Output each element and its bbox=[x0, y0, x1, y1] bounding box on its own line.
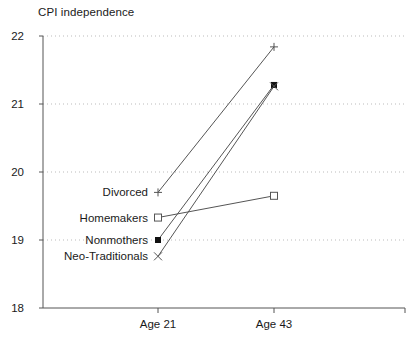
chart-container: CPI independence 1819202122 Age 21Age 43… bbox=[0, 0, 412, 348]
gridlines bbox=[43, 36, 405, 240]
y-tick-label: 21 bbox=[0, 98, 24, 110]
x-tick-marks bbox=[158, 308, 405, 313]
data-point-marker-filled-square bbox=[156, 238, 161, 243]
data-point-marker-open-square bbox=[155, 214, 162, 221]
data-point-marker-open-square bbox=[271, 192, 278, 199]
data-point-marker-cross-x bbox=[154, 252, 162, 260]
series-label-divorced: Divorced bbox=[103, 186, 148, 198]
y-tick-marks bbox=[39, 36, 43, 308]
series-markers bbox=[154, 43, 278, 260]
series-label-neo-traditionals: Neo-Traditionals bbox=[64, 250, 148, 262]
y-tick-label: 18 bbox=[0, 302, 24, 314]
series-label-nonmothers: Nonmothers bbox=[85, 234, 148, 246]
y-tick-label: 22 bbox=[0, 30, 24, 42]
series-line bbox=[158, 196, 274, 218]
y-tick-label: 19 bbox=[0, 234, 24, 246]
series-lines bbox=[158, 47, 274, 256]
x-tick-label: Age 21 bbox=[140, 318, 176, 330]
series-line bbox=[158, 85, 274, 240]
y-tick-label: 20 bbox=[0, 166, 24, 178]
plot-area bbox=[0, 0, 412, 348]
series-label-homemakers: Homemakers bbox=[80, 212, 148, 224]
x-tick-label: Age 43 bbox=[256, 318, 292, 330]
